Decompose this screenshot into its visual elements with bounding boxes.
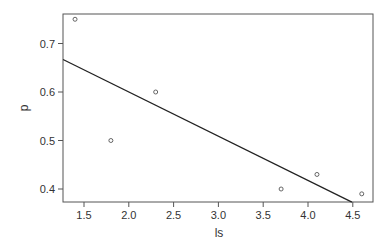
x-tick-label: 2.5 xyxy=(166,209,181,221)
x-axis: 1.52.02.53.03.54.04.5 xyxy=(76,202,360,221)
x-tick-label: 1.5 xyxy=(76,209,91,221)
plot-series xyxy=(63,17,364,202)
y-tick-label: 0.4 xyxy=(40,183,55,195)
x-tick-label: 2.0 xyxy=(121,209,136,221)
data-point xyxy=(73,17,77,21)
y-axis-title: p xyxy=(17,104,31,111)
x-tick-label: 4.5 xyxy=(345,209,360,221)
y-axis: 0.40.50.60.7 xyxy=(40,38,63,196)
plot-frame xyxy=(63,14,373,202)
regression-line xyxy=(63,60,352,203)
x-tick-label: 3.5 xyxy=(256,209,271,221)
y-tick-label: 0.6 xyxy=(40,86,55,98)
scatter-plot: 1.52.02.53.03.54.04.5 0.40.50.60.7 ls p xyxy=(0,0,391,251)
data-point xyxy=(109,139,113,143)
y-tick-label: 0.5 xyxy=(40,135,55,147)
y-tick-label: 0.7 xyxy=(40,38,55,50)
x-tick-label: 3.0 xyxy=(211,209,226,221)
x-axis-title: ls xyxy=(215,226,224,240)
data-point xyxy=(279,187,283,191)
data-point xyxy=(315,172,319,176)
x-tick-label: 4.0 xyxy=(300,209,315,221)
data-point xyxy=(154,90,158,94)
data-point xyxy=(360,192,364,196)
